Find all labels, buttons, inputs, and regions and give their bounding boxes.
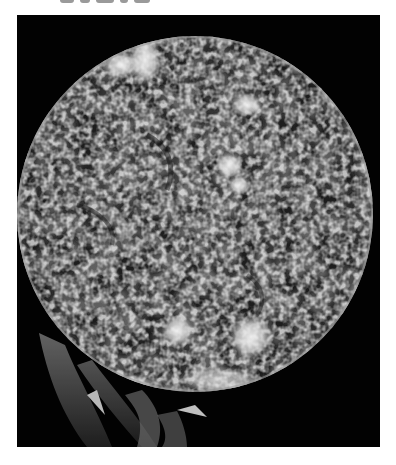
sun-image-frame [17,15,380,447]
cut-off-caption-remnant [60,0,180,4]
sun-disk-image [17,15,380,447]
